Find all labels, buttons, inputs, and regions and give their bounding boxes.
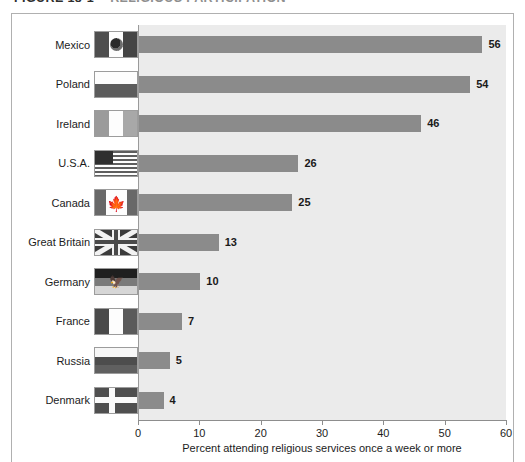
x-tick-label-50: 50 [439,427,451,439]
figure-caption: FIGURE 18-1RELIGIOUS PARTICIPATION [14,0,286,5]
x-tick-20 [261,420,262,425]
category-label-great-britain: Great Britain [28,236,90,248]
category-germany: Germany🦅 [12,262,138,302]
mexico-flag [94,31,138,58]
bar-canada [139,194,292,211]
category-poland: Poland [12,65,138,105]
x-tick-40 [383,420,384,425]
bar-ireland [139,115,421,132]
france-flag [94,308,138,335]
bar-row-mexico: 56 [139,25,506,65]
x-tick-label-40: 40 [377,427,389,439]
figure-page: FIGURE 18-1RELIGIOUS PARTICIPATION Relig… [0,0,525,462]
bar-row-poland: 54 [139,65,506,105]
x-axis-title: Percent attending religious services onc… [138,442,506,454]
x-tick-label-10: 10 [193,427,205,439]
bar-value-france: 7 [188,316,194,327]
category-label-russia: Russia [56,355,90,367]
bar-value-russia: 5 [176,355,182,366]
category-u-s-a: U.S.A. [12,144,138,184]
usa-flag [94,150,138,177]
bar-germany [139,273,200,290]
ireland-flag [94,110,138,137]
category-france: France [12,302,138,342]
bar-value-canada: 25 [298,197,310,208]
x-tick-label-30: 30 [316,427,328,439]
bar-russia [139,352,170,369]
category-label-denmark: Denmark [45,394,90,406]
bar-value-u-s-a: 26 [304,158,316,169]
category-label-germany: Germany [45,276,90,288]
russia-flag [94,347,138,374]
category-label-ireland: Ireland [56,118,90,130]
bar-value-poland: 54 [476,79,488,90]
x-tick-label-60: 60 [500,427,512,439]
category-russia: Russia [12,341,138,381]
x-tick-label-0: 0 [135,427,141,439]
bar-row-france: 7 [139,302,506,342]
bar-denmark [139,392,164,409]
figure-number: FIGURE 18-1 [14,0,94,5]
bar-value-denmark: 4 [170,395,176,406]
category-canada: Canada🍁 [12,183,138,223]
category-ireland: Ireland [12,104,138,144]
category-label-france: France [56,315,90,327]
bar-row-u-s-a: 26 [139,144,506,184]
category-label-mexico: Mexico [55,39,90,51]
category-great-britain: Great Britain [12,223,138,263]
category-label-u-s-a: U.S.A. [58,157,90,169]
category-label-poland: Poland [56,78,90,90]
bar-u-s-a [139,155,298,172]
plot-area: 56544626251310754 [138,25,506,420]
bar-row-ireland: 46 [139,104,506,144]
bar-row-canada: 25 [139,183,506,223]
category-label-canada: Canada [51,197,90,209]
bar-row-denmark: 4 [139,381,506,421]
bar-poland [139,76,470,93]
x-tick-60 [506,420,507,425]
x-axis: 0102030405060 [138,420,506,421]
great-britain-flag [94,229,138,256]
bar-row-great-britain: 13 [139,223,506,263]
figure-frame: Religion Religion in History Religion in… [11,13,514,462]
bar-value-mexico: 56 [488,39,500,50]
germany-flag: 🦅 [94,268,138,295]
x-tick-50 [445,420,446,425]
bar-france [139,313,182,330]
category-denmark: Denmark [12,381,138,421]
x-tick-0 [138,420,139,425]
denmark-flag [94,387,138,414]
bar-value-germany: 10 [206,276,218,287]
category-axis: MexicoPolandIrelandU.S.A.Canada🍁Great Br… [12,25,138,420]
bar-value-great-britain: 13 [225,237,237,248]
bar-row-germany: 10 [139,262,506,302]
bar-row-russia: 5 [139,341,506,381]
bar-great-britain [139,234,219,251]
bar-chart: MexicoPolandIrelandU.S.A.Canada🍁Great Br… [12,14,515,462]
poland-flag [94,71,138,98]
x-tick-label-20: 20 [255,427,267,439]
bar-value-ireland: 46 [427,118,439,129]
bar-mexico [139,36,482,53]
x-tick-30 [322,420,323,425]
category-mexico: Mexico [12,25,138,65]
figure-title: RELIGIOUS PARTICIPATION [110,0,286,5]
x-tick-10 [199,420,200,425]
canada-flag: 🍁 [94,189,138,216]
bar-rows: 56544626251310754 [139,25,506,420]
